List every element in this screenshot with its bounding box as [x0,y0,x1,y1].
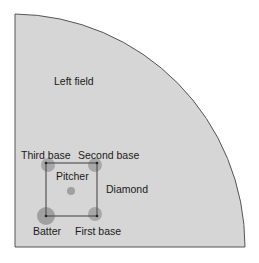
corner-dot [96,215,99,218]
pitcher-marker [67,187,75,195]
second-base-label: Second base [78,150,139,161]
third-base-label: Third base [21,150,71,161]
diamond-label: Diamond [106,184,148,195]
baseball-field-diagram [0,0,259,263]
batter-label: Batter [33,226,61,237]
corner-dot [96,162,99,165]
pitcher-label: Pitcher [56,171,89,182]
left-field-label: Left field [54,76,94,87]
first-base-label: First base [75,226,121,237]
corner-dot [45,215,48,218]
corner-dot [45,162,48,165]
first-base-marker [88,207,102,221]
